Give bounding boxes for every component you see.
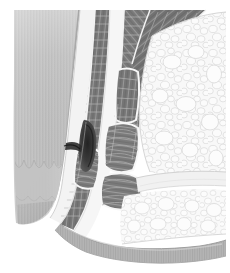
ischioanal-fat-upper <box>139 12 226 178</box>
anatomical-figure: Anal canal lumen Anal columns (columns o… <box>0 0 230 273</box>
anatomical-illustration-canvas <box>0 0 230 273</box>
